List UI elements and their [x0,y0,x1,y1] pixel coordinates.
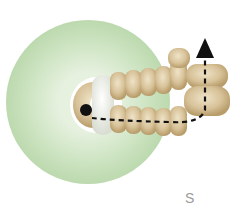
bead-diagram: S [0,0,246,203]
caption-fragment: S [185,190,195,203]
seed-beads-end-column [184,64,230,116]
arrow-up-icon [196,38,214,58]
thread-start-dot [80,104,92,116]
